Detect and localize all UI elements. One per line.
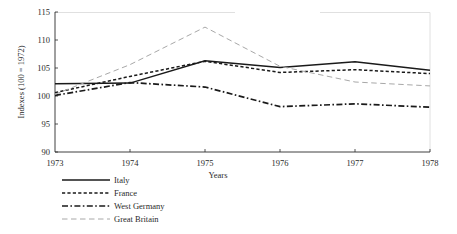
y-tick-label: 100 bbox=[37, 91, 50, 101]
chart-figure: 9095100105110115 19731974197519761977197… bbox=[0, 0, 457, 234]
y-tick-label: 115 bbox=[38, 7, 50, 17]
series-line-west-germany bbox=[55, 83, 430, 108]
y-axis-title: Indexes (100 = 1972) bbox=[16, 45, 26, 118]
x-axis: 197319741975197619771978 bbox=[47, 149, 439, 168]
y-tick-label: 90 bbox=[42, 147, 51, 157]
chart-legend: ItalyFranceWest GermanyGreat Britain bbox=[62, 175, 165, 224]
series-line-italy bbox=[55, 61, 430, 84]
legend-label-italy: Italy bbox=[114, 175, 130, 185]
y-tick-label: 95 bbox=[42, 119, 51, 129]
legend-label-west-germany: West Germany bbox=[114, 201, 165, 211]
legend-label-france: France bbox=[114, 188, 137, 198]
legend-label-great-britain: Great Britain bbox=[114, 214, 159, 224]
x-tick-label: 1974 bbox=[122, 158, 140, 168]
y-tick-label: 110 bbox=[38, 35, 50, 45]
frame-artifacts bbox=[55, 13, 430, 153]
x-axis-title: Years bbox=[209, 170, 228, 180]
x-tick-label: 1975 bbox=[197, 158, 214, 168]
series-line-great-britain bbox=[55, 27, 430, 94]
series-line-france bbox=[55, 61, 430, 92]
x-tick-label: 1973 bbox=[47, 158, 64, 168]
line-chart-canvas: 9095100105110115 19731974197519761977197… bbox=[0, 0, 457, 234]
y-tick-label: 105 bbox=[37, 63, 50, 73]
series-group bbox=[55, 27, 430, 107]
x-tick-label: 1977 bbox=[347, 158, 364, 168]
x-tick-label: 1978 bbox=[422, 158, 439, 168]
y-axis: 9095100105110115 bbox=[37, 7, 58, 157]
x-tick-label: 1976 bbox=[272, 158, 289, 168]
